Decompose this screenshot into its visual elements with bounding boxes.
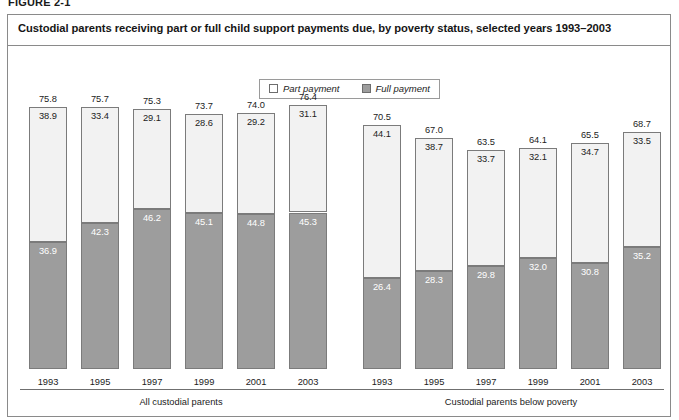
bar-segment-value-label: 38.9 [30,111,66,121]
bar-segment-value-label: 26.4 [364,282,400,292]
bar-total-label: 73.7 [185,101,223,111]
bar-segment-full-payment[interactable]: 29.8 [467,266,505,369]
bar-total-label: 70.5 [363,112,401,122]
bar-segment-full-payment[interactable]: 35.2 [623,247,661,369]
bar-segment-part-payment[interactable]: 29.2 [237,113,275,214]
bar-total-label: 64.1 [519,135,557,145]
chart-plot-area: All custodial parents 75.838.936.9199375… [8,15,670,416]
bar-slot: 64.132.132.01999 [512,15,564,415]
bar-segment-full-payment[interactable]: 36.9 [29,242,67,369]
bar-segment-full-payment[interactable]: 28.3 [415,271,453,369]
stacked-bar[interactable]: 64.132.132.0 [519,148,557,369]
bar-slot: 75.733.442.31995 [74,15,126,415]
bar-total-label: 65.5 [571,130,609,140]
bar-segment-value-label: 29.1 [134,113,170,123]
bar-segment-value-label: 29.2 [238,117,274,127]
bar-total-label: 75.7 [81,94,119,104]
x-axis-tick-label: 2001 [230,377,282,387]
x-axis-tick-label: 1995 [408,377,460,387]
bar-segment-part-payment[interactable]: 38.9 [29,107,67,241]
bar-segment-full-payment[interactable]: 42.3 [81,223,119,369]
bar-segment-value-label: 33.5 [624,136,660,146]
bar-segment-part-payment[interactable]: 38.7 [415,138,453,272]
bar-group-all-custodial-parents: All custodial parents 75.838.936.9199375… [22,15,340,415]
bar-segment-value-label: 28.6 [186,118,222,128]
bar-segment-value-label: 46.2 [134,213,170,223]
bar-segment-value-label: 33.7 [468,154,504,164]
bar-slot: 75.838.936.91993 [22,15,74,415]
stacked-bar[interactable]: 76.431.145.3 [289,105,327,369]
stacked-bar[interactable]: 65.534.730.8 [571,143,609,369]
bar-segment-value-label: 32.0 [520,262,556,272]
bar-segment-value-label: 34.7 [572,147,608,157]
x-axis-tick-label: 1993 [22,377,74,387]
x-axis-tick-label: 1999 [512,377,564,387]
bar-segment-full-payment[interactable]: 45.3 [289,213,327,370]
bar-slot: 63.533.729.81997 [460,15,512,415]
figure-frame: Custodial parents receiving part or full… [7,14,671,417]
bar-segment-value-label: 32.1 [520,152,556,162]
bar-segment-value-label: 42.3 [82,227,118,237]
stacked-bar[interactable]: 70.544.126.4 [363,125,401,369]
stacked-bar[interactable]: 68.733.535.2 [623,132,661,369]
stacked-bar[interactable]: 67.038.728.3 [415,138,453,369]
bar-segment-value-label: 44.1 [364,129,400,139]
bar-segment-value-label: 45.3 [290,217,326,227]
bar-segment-part-payment[interactable]: 32.1 [519,148,557,259]
x-axis-tick-label: 2003 [616,377,668,387]
bar-segment-value-label: 33.4 [82,111,118,121]
bar-segment-full-payment[interactable]: 45.1 [185,213,223,369]
bar-segment-full-payment[interactable]: 26.4 [363,278,401,369]
x-axis-tick-label: 2003 [282,377,334,387]
bar-segment-value-label: 38.7 [416,142,452,152]
bar-segment-part-payment[interactable]: 29.1 [133,109,171,210]
bar-segment-value-label: 35.2 [624,251,660,261]
bar-segment-full-payment[interactable]: 46.2 [133,209,171,369]
x-axis-tick-label: 1999 [178,377,230,387]
x-axis-tick-label: 1997 [460,377,512,387]
bar-segment-value-label: 28.3 [416,275,452,285]
bar-segment-part-payment[interactable]: 33.7 [467,150,505,266]
bar-total-label: 75.3 [133,96,171,106]
bar-segment-part-payment[interactable]: 34.7 [571,143,609,263]
bar-segment-full-payment[interactable]: 30.8 [571,263,609,369]
bar-total-label: 63.5 [467,137,505,147]
figure-number-label: FIGURE 2-1 [8,0,71,8]
bar-slot: 65.534.730.82001 [564,15,616,415]
bar-segment-part-payment[interactable]: 28.6 [185,114,223,213]
stacked-bar[interactable]: 75.838.936.9 [29,107,67,369]
stacked-bar[interactable]: 75.733.442.3 [81,107,119,369]
stacked-bar[interactable]: 63.533.729.8 [467,150,505,369]
bar-segment-value-label: 30.8 [572,267,608,277]
bar-segment-value-label: 44.8 [238,218,274,228]
x-axis-tick-label: 1995 [74,377,126,387]
bar-segment-full-payment[interactable]: 32.0 [519,258,557,369]
bar-slot: 75.329.146.21997 [126,15,178,415]
bar-slot: 76.431.145.32003 [282,15,334,415]
bar-total-label: 67.0 [415,125,453,135]
bar-total-label: 74.0 [237,100,275,110]
bar-segment-value-label: 31.1 [290,109,326,119]
bar-slot: 74.029.244.82001 [230,15,282,415]
bar-segment-value-label: 29.8 [468,270,504,280]
bar-segment-part-payment[interactable]: 44.1 [363,125,401,277]
bar-slot: 67.038.728.31995 [408,15,460,415]
bar-segment-value-label: 36.9 [30,246,66,256]
x-axis-tick-label: 1997 [126,377,178,387]
bar-slot: 73.728.645.11999 [178,15,230,415]
bar-group-custodial-parents-below-poverty: Custodial parents below poverty 70.544.1… [356,15,666,415]
bar-total-label: 75.8 [29,94,67,104]
bar-segment-part-payment[interactable]: 31.1 [289,105,327,212]
x-axis-tick-label: 1993 [356,377,408,387]
stacked-bar[interactable]: 74.029.244.8 [237,113,275,369]
bar-total-label: 76.4 [289,92,327,102]
bar-segment-part-payment[interactable]: 33.5 [623,132,661,248]
bar-segment-part-payment[interactable]: 33.4 [81,107,119,222]
stacked-bar[interactable]: 73.728.645.1 [185,114,223,369]
x-axis-tick-label: 2001 [564,377,616,387]
bar-total-label: 68.7 [623,119,661,129]
stacked-bar[interactable]: 75.329.146.2 [133,109,171,369]
bar-slot: 68.733.535.22003 [616,15,668,415]
bar-slot: 70.544.126.41993 [356,15,408,415]
bar-segment-full-payment[interactable]: 44.8 [237,214,275,369]
